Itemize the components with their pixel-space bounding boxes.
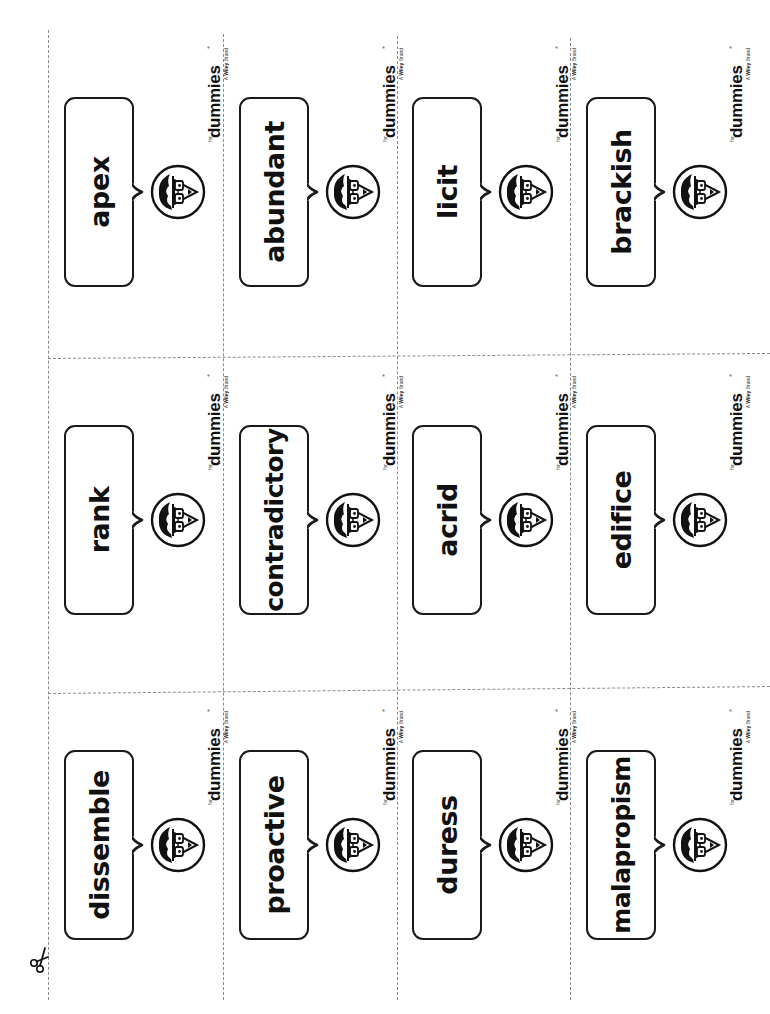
speech-bubble-tail bbox=[480, 182, 492, 202]
speech-bubble: edifice bbox=[586, 425, 656, 615]
speech-bubble-tail bbox=[307, 182, 319, 202]
dummies-mascot-icon bbox=[150, 492, 206, 548]
dummies-mascot-icon bbox=[498, 164, 554, 220]
logo-registered-mark: ® bbox=[206, 374, 211, 377]
speech-bubble: acrid bbox=[412, 425, 482, 615]
vocabulary-word: brackish bbox=[606, 129, 637, 254]
vocabulary-word: dissemble bbox=[84, 770, 115, 920]
logo-name-text: dummies bbox=[206, 65, 223, 138]
speech-bubble: abundant bbox=[239, 97, 309, 287]
logo-name-text: dummies bbox=[381, 65, 398, 138]
speech-bubble-tail bbox=[654, 835, 666, 855]
speech-bubble: malapropism bbox=[586, 750, 656, 940]
logo-tagline: A Wiley Brand bbox=[745, 48, 751, 80]
flashcard-edifice: edifice bbox=[571, 360, 770, 693]
logo-name-text: dummies bbox=[554, 728, 571, 801]
dummies-mascot-icon bbox=[150, 164, 206, 220]
dummies-logo: for dummies ® A Wiley Brand bbox=[728, 46, 754, 142]
logo-name-text: dummies bbox=[554, 393, 571, 466]
dummies-mascot-icon bbox=[672, 164, 728, 220]
dummies-mascot-icon bbox=[498, 817, 554, 873]
flashcard-brackish: brackish bbox=[571, 32, 770, 358]
flashcard-malapropism: malapropism bbox=[571, 695, 770, 1000]
dummies-mascot-icon bbox=[672, 492, 728, 548]
vocabulary-word: proactive bbox=[259, 776, 290, 915]
speech-bubble-tail bbox=[654, 182, 666, 202]
vocabulary-word: rank bbox=[84, 487, 115, 554]
dummies-logo: for dummies ® A Wiley Brand bbox=[728, 374, 754, 470]
logo-name-text: dummies bbox=[728, 728, 745, 801]
speech-bubble: apex bbox=[64, 97, 134, 287]
speech-bubble: brackish bbox=[586, 97, 656, 287]
logo-registered-mark: ® bbox=[381, 709, 386, 712]
logo-registered-mark: ® bbox=[206, 46, 211, 49]
logo-registered-mark: ® bbox=[206, 709, 211, 712]
dummies-mascot-icon bbox=[672, 817, 728, 873]
speech-bubble-tail bbox=[132, 510, 144, 530]
flashcard-licit: licit bbox=[397, 32, 570, 358]
speech-bubble-tail bbox=[480, 835, 492, 855]
speech-bubble-tail bbox=[654, 510, 666, 530]
flashcard-duress: duress bbox=[397, 695, 570, 1000]
logo-tagline: A Wiley Brand bbox=[745, 711, 751, 743]
flashcard-proactive: proactive bbox=[224, 695, 397, 1000]
logo-name-text: dummies bbox=[381, 393, 398, 466]
logo-registered-mark: ® bbox=[728, 374, 733, 377]
speech-bubble-tail bbox=[132, 182, 144, 202]
logo-name-text: dummies bbox=[728, 65, 745, 138]
speech-bubble: licit bbox=[412, 97, 482, 287]
vocabulary-word: apex bbox=[84, 156, 115, 227]
speech-bubble: contradictory bbox=[239, 425, 309, 615]
speech-bubble: duress bbox=[412, 750, 482, 940]
speech-bubble: rank bbox=[64, 425, 134, 615]
vocabulary-word: abundant bbox=[259, 121, 290, 263]
logo-registered-mark: ® bbox=[728, 46, 733, 49]
flashcard-contradictory: contradictory bbox=[224, 360, 397, 693]
logo-registered-mark: ® bbox=[728, 709, 733, 712]
logo-name-text: dummies bbox=[206, 728, 223, 801]
dummies-mascot-icon bbox=[325, 164, 381, 220]
logo-registered-mark: ® bbox=[381, 374, 386, 377]
dummies-mascot-icon bbox=[150, 817, 206, 873]
speech-bubble: dissemble bbox=[64, 750, 134, 940]
speech-bubble-tail bbox=[307, 510, 319, 530]
vocabulary-word: malapropism bbox=[607, 756, 636, 934]
logo-registered-mark: ® bbox=[554, 374, 559, 377]
flashcard-rank: rank bbox=[49, 360, 223, 693]
vocabulary-word: edifice bbox=[606, 471, 637, 570]
logo-name-text: dummies bbox=[728, 393, 745, 466]
dummies-mascot-icon bbox=[498, 492, 554, 548]
flashcard-dissemble: dissemble bbox=[49, 695, 223, 1000]
dummies-mascot-icon bbox=[325, 817, 381, 873]
speech-bubble: proactive bbox=[239, 750, 309, 940]
speech-bubble-tail bbox=[307, 835, 319, 855]
logo-registered-mark: ® bbox=[381, 46, 386, 49]
logo-name-text: dummies bbox=[206, 393, 223, 466]
dummies-logo: for dummies ® A Wiley Brand bbox=[728, 709, 754, 805]
logo-name-text: dummies bbox=[554, 65, 571, 138]
speech-bubble-tail bbox=[132, 835, 144, 855]
vocabulary-word: licit bbox=[432, 165, 463, 219]
flashcard-apex: apex bbox=[49, 32, 223, 358]
logo-name-text: dummies bbox=[381, 728, 398, 801]
flashcard-abundant: abundant bbox=[224, 32, 397, 358]
logo-registered-mark: ® bbox=[554, 709, 559, 712]
flashcard-acrid: acrid bbox=[397, 360, 570, 693]
flashcard-sheet: apex bbox=[0, 0, 770, 1014]
vocabulary-word: acrid bbox=[432, 483, 463, 557]
dummies-mascot-icon bbox=[325, 492, 381, 548]
vocabulary-word: duress bbox=[432, 795, 463, 894]
logo-registered-mark: ® bbox=[554, 46, 559, 49]
vocabulary-word: contradictory bbox=[260, 428, 289, 611]
speech-bubble-tail bbox=[480, 510, 492, 530]
logo-tagline: A Wiley Brand bbox=[745, 376, 751, 408]
